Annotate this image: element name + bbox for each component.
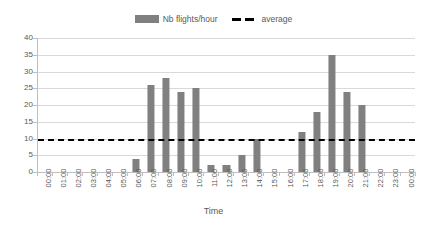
x-label-slot: 20:00	[340, 176, 355, 206]
bar-slot	[264, 38, 279, 172]
x-label-slot: 23:00	[385, 176, 400, 206]
x-label-slot: 02:00	[67, 176, 82, 206]
x-tick-label: 00:00	[408, 169, 416, 188]
bar	[328, 55, 335, 172]
x-tick-label: 22:00	[377, 169, 385, 188]
x-tick-label: 09:00	[181, 169, 189, 188]
bar-slot	[234, 38, 249, 172]
x-label-slot: 09:00	[173, 176, 188, 206]
x-tick-label: 16:00	[287, 169, 295, 188]
x-label-slot: 15:00	[264, 176, 279, 206]
legend-item-average: average	[232, 15, 293, 24]
x-tick-label: 20:00	[347, 169, 355, 188]
y-tick-mark	[33, 55, 37, 56]
dashed-line-icon	[232, 15, 258, 23]
flights-per-hour-bar-chart: Nb flights/hour average 0510152025303540…	[0, 0, 427, 225]
x-label-slot: 00:00	[400, 176, 415, 206]
x-tick-label: 02:00	[75, 169, 83, 188]
bar	[178, 92, 185, 172]
y-tick-label: 15	[7, 118, 33, 126]
x-label-slot: 13:00	[234, 176, 249, 206]
bar-slot	[128, 38, 143, 172]
bar-slot	[309, 38, 324, 172]
bar-slot	[189, 38, 204, 172]
y-tick-mark	[33, 88, 37, 89]
x-tick-label: 12:00	[226, 169, 234, 188]
x-label-slot: 05:00	[113, 176, 128, 206]
bar	[344, 92, 351, 172]
x-tick-label: 15:00	[271, 169, 279, 188]
x-tick-label: 17:00	[302, 169, 310, 188]
x-tick-label: 05:00	[120, 169, 128, 188]
x-label-slot: 07:00	[143, 176, 158, 206]
bar-slot	[144, 38, 159, 172]
bar-swatch-icon	[135, 15, 159, 23]
x-label-slot: 12:00	[219, 176, 234, 206]
bar	[193, 88, 200, 172]
x-tick-label: 14:00	[256, 169, 264, 188]
bar-slot	[340, 38, 355, 172]
y-tick-mark	[33, 105, 37, 106]
bar-slot	[174, 38, 189, 172]
legend-item-nb-flights: Nb flights/hour	[135, 15, 218, 24]
bar-slot	[324, 38, 339, 172]
bar-slot	[83, 38, 98, 172]
y-tick-label: 5	[7, 151, 33, 159]
average-reference-line	[38, 139, 415, 141]
bar-slot	[355, 38, 370, 172]
bar-slot	[385, 38, 400, 172]
y-tick-mark	[33, 72, 37, 73]
x-axis-title: Time	[0, 206, 427, 216]
y-tick-label: 35	[7, 51, 33, 59]
bar-slot	[113, 38, 128, 172]
y-tick-mark	[33, 155, 37, 156]
bar-slot	[159, 38, 174, 172]
bar-slot	[38, 38, 53, 172]
x-label-slot: 01:00	[52, 176, 67, 206]
x-tick-label: 23:00	[392, 169, 400, 188]
bar	[253, 139, 260, 173]
x-tick-label: 08:00	[166, 169, 174, 188]
x-tick-label: 07:00	[150, 169, 158, 188]
bar-slot	[53, 38, 68, 172]
x-label-slot: 08:00	[158, 176, 173, 206]
x-label-slot: 17:00	[294, 176, 309, 206]
legend-label-average: average	[262, 15, 293, 24]
bar-slot	[249, 38, 264, 172]
x-label-slot: 10:00	[188, 176, 203, 206]
y-tick-label: 40	[7, 34, 33, 42]
x-tick-label: 03:00	[90, 169, 98, 188]
x-axis-labels: 00:0001:0002:0003:0004:0005:0006:0007:00…	[37, 176, 415, 206]
x-tick-label: 06:00	[135, 169, 143, 188]
bar	[313, 112, 320, 172]
bar	[148, 85, 155, 172]
x-tick-label: 10:00	[196, 169, 204, 188]
x-label-slot: 18:00	[309, 176, 324, 206]
bar	[163, 78, 170, 172]
legend-label-nb-flights: Nb flights/hour	[163, 15, 218, 24]
x-tick-label: 18:00	[317, 169, 325, 188]
plot-area	[37, 38, 415, 172]
bar-slot	[294, 38, 309, 172]
x-label-slot: 06:00	[128, 176, 143, 206]
bar-slot	[219, 38, 234, 172]
x-tick-label: 11:00	[211, 169, 219, 187]
x-label-slot: 14:00	[249, 176, 264, 206]
y-tick-label: 0	[7, 168, 33, 176]
x-tick-label: 13:00	[241, 169, 249, 188]
x-tick-label: 00:00	[45, 169, 53, 188]
x-label-slot: 22:00	[370, 176, 385, 206]
x-tick-label: 04:00	[105, 169, 113, 188]
y-tick-mark	[33, 38, 37, 39]
bar-slot	[279, 38, 294, 172]
x-label-slot: 04:00	[98, 176, 113, 206]
bar-slot	[68, 38, 83, 172]
y-tick-label: 30	[7, 68, 33, 76]
y-tick-mark	[33, 122, 37, 123]
x-tick-label: 21:00	[362, 169, 370, 188]
x-tick-label: 01:00	[60, 169, 68, 188]
bar-slot	[204, 38, 219, 172]
x-label-slot: 16:00	[279, 176, 294, 206]
chart-legend: Nb flights/hour average	[0, 11, 427, 27]
x-label-slot: 11:00	[203, 176, 218, 206]
